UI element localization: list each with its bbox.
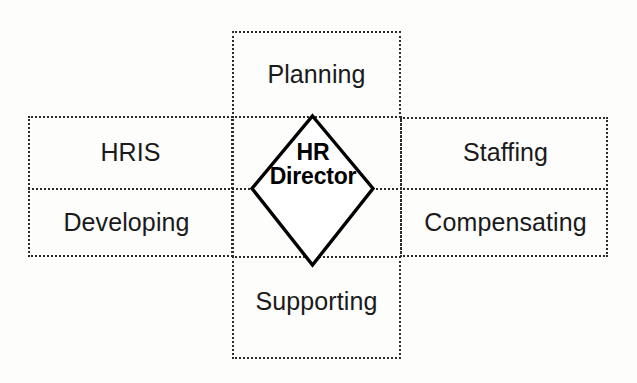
center-column-right-edge [400, 116, 402, 257]
diagram-canvas: Planning HRIS Developing Staffing Compen… [0, 0, 637, 383]
hr-director-line1: HR [248, 140, 378, 164]
cell-label-staffing: Staffing [403, 118, 608, 186]
cell-label-planning: Planning [232, 40, 401, 108]
hr-director-diamond [248, 110, 378, 270]
cell-label-compensating: Compensating [403, 190, 608, 254]
cell-label-developing: Developing [24, 190, 229, 254]
diamond-shape-icon [248, 110, 378, 270]
cell-label-hris: HRIS [28, 118, 233, 186]
hr-director-label: HR Director [248, 140, 378, 189]
hr-director-line2: Director [248, 164, 378, 188]
cell-label-supporting: Supporting [232, 268, 401, 334]
